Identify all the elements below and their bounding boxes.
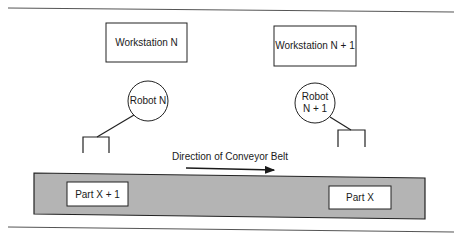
robot-n-gripper-icon — [83, 137, 109, 153]
robot-n-plus-1-label-line-2: N + 1 — [303, 103, 328, 114]
robot-n-plus-1-arm — [330, 117, 351, 130]
part-x-plus-1-label: Part X + 1 — [75, 189, 120, 200]
robot-n-label: Robot N — [130, 95, 167, 106]
conveyor-direction-label: Direction of Conveyor Belt — [172, 151, 288, 162]
robot-n: Robot N — [83, 81, 168, 153]
robot-n-plus-1-gripper-icon — [338, 130, 365, 147]
conveyor-direction-arrow-icon — [186, 168, 274, 170]
top-rule — [8, 8, 454, 12]
workstation-n-label: Workstation N — [115, 37, 178, 48]
workstation-n-plus-1: Workstation N + 1 — [274, 26, 356, 66]
bottom-rule — [8, 227, 454, 232]
conveyor-workstation-diagram: Workstation N Workstation N + 1 Robot N … — [0, 0, 454, 234]
robot-n-plus-1-label-line-1: Robot — [302, 91, 329, 102]
part-x: Part X — [329, 186, 391, 209]
workstation-n: Workstation N — [106, 23, 187, 62]
part-x-label: Part X — [346, 192, 374, 203]
robot-n-arm — [97, 115, 134, 137]
workstation-n-plus-1-label: Workstation N + 1 — [275, 40, 355, 51]
part-x-plus-1: Part X + 1 — [67, 182, 128, 206]
robot-n-plus-1: Robot N + 1 — [295, 83, 365, 147]
